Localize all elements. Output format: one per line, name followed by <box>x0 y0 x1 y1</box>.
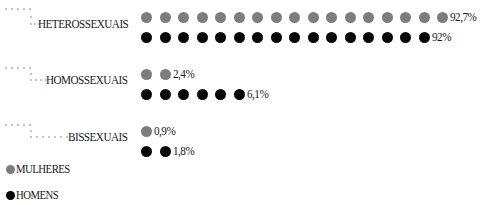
dot-marker <box>178 32 189 43</box>
category-label-heterossexuais: HETEROSSEXUAIS <box>38 16 128 32</box>
value-label: 6,1% <box>247 86 268 102</box>
dot-row-homens-homossexuais: 6,1% <box>141 88 271 100</box>
dot-marker <box>419 12 430 23</box>
dot-marker <box>419 32 430 43</box>
dot-marker <box>400 32 411 43</box>
dot-marker <box>234 89 245 100</box>
connector-bissexuais <box>4 123 70 143</box>
legend-item-mulheres: MULHERES <box>6 162 79 177</box>
value-label: 1,8% <box>173 143 194 159</box>
legend-label-mulheres: MULHERES <box>16 162 70 177</box>
dot-marker <box>289 32 300 43</box>
dot-marker <box>382 12 393 23</box>
dot-marker <box>141 12 152 23</box>
dot-marker <box>178 89 189 100</box>
dot-row-mulheres-bissexuais: 0,9% <box>141 125 179 137</box>
dot-marker <box>215 32 226 43</box>
dot-marker <box>160 89 171 100</box>
dot-marker <box>271 12 282 23</box>
dot-marker <box>252 12 263 23</box>
dot-marker <box>215 89 226 100</box>
connector-heterossexuais <box>4 7 40 31</box>
legend-label-homens: HOMENS <box>16 188 58 203</box>
value-label: 2,4% <box>173 66 194 82</box>
dot-marker <box>197 12 208 23</box>
dot-row-mulheres-homossexuais: 2,4% <box>141 68 197 80</box>
dot-row-homens-heterossexuais: 92% <box>141 31 454 43</box>
dot-marker <box>160 12 171 23</box>
dot-marker <box>141 32 152 43</box>
value-label: 92% <box>432 29 451 45</box>
dot-marker <box>345 12 356 23</box>
connector-homossexuais <box>4 66 48 86</box>
legend-dot-icon-mulheres <box>6 165 15 174</box>
dot-marker <box>271 32 282 43</box>
dot-marker <box>437 12 448 23</box>
dot-marker <box>363 32 374 43</box>
dot-marker <box>252 32 263 43</box>
dot-marker <box>326 12 337 23</box>
dot-marker <box>345 32 356 43</box>
dot-marker <box>197 89 208 100</box>
dot-marker <box>197 32 208 43</box>
dot-marker <box>363 12 374 23</box>
dot-marker <box>308 32 319 43</box>
value-label: 0,9% <box>154 123 175 139</box>
dot-row-homens-bissexuais: 1,8% <box>141 145 197 157</box>
legend-item-homens: HOMENS <box>6 188 65 203</box>
dot-marker <box>215 12 226 23</box>
dot-marker <box>160 69 171 80</box>
category-label-homossexuais: HOMOSSEXUAIS <box>46 72 127 88</box>
legend-dot-icon-homens <box>6 191 15 200</box>
dot-marker <box>400 12 411 23</box>
dot-marker <box>326 32 337 43</box>
dot-marker <box>141 89 152 100</box>
dot-marker <box>141 126 152 137</box>
dot-marker <box>234 12 245 23</box>
dot-marker <box>160 146 171 157</box>
dot-marker <box>178 12 189 23</box>
dot-marker <box>234 32 245 43</box>
dot-marker <box>289 12 300 23</box>
dot-marker <box>141 69 152 80</box>
dot-marker <box>308 12 319 23</box>
dot-marker <box>141 146 152 157</box>
dot-row-mulheres-heterossexuais: 92,7% <box>141 11 481 23</box>
dot-marker <box>382 32 393 43</box>
value-label: 92,7% <box>450 9 476 25</box>
dot-marker <box>160 32 171 43</box>
category-label-bissexuais: BISSEXUAIS <box>68 129 127 145</box>
